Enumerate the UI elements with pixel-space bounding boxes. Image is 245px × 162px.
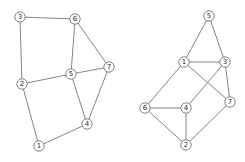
graph-edge <box>87 67 109 124</box>
graph-edge <box>184 16 209 62</box>
graph-edge <box>145 108 186 145</box>
graph-node-label: 5 <box>69 70 73 78</box>
graph-edge <box>39 124 87 146</box>
graph-node-label: 2 <box>20 80 24 88</box>
graph-edge <box>209 16 225 62</box>
graph-edge <box>22 74 71 84</box>
graph-edge <box>22 84 39 146</box>
graph-node-label: 6 <box>73 15 78 23</box>
right-graph: 1234567 <box>140 11 235 150</box>
graph-figure: 12345671234567 <box>0 0 245 162</box>
graph-edge <box>145 62 184 108</box>
graph-diagram: 12345671234567 <box>0 0 245 162</box>
graph-edge <box>75 19 109 67</box>
graph-edge <box>184 62 230 102</box>
graph-node-label: 7 <box>107 63 111 71</box>
graph-node-label: 3 <box>223 58 227 66</box>
graph-node-label: 4 <box>184 104 189 112</box>
graph-node-label: 7 <box>228 98 232 106</box>
graph-node-label: 1 <box>182 58 186 66</box>
graph-node-label: 6 <box>143 104 148 112</box>
graph-edge <box>71 19 75 74</box>
left-graph: 1234567 <box>15 12 114 151</box>
graph-node-label: 5 <box>207 12 211 20</box>
graph-edge <box>186 102 230 145</box>
graph-edge <box>20 17 22 84</box>
graph-edge <box>71 67 109 74</box>
graph-node-label: 2 <box>184 141 188 149</box>
graph-edge <box>20 17 75 19</box>
graph-node-label: 4 <box>85 120 90 128</box>
graph-edge <box>225 62 230 102</box>
graph-edge <box>71 74 87 124</box>
graph-node-label: 1 <box>37 142 41 150</box>
graph-node-label: 3 <box>18 13 22 21</box>
